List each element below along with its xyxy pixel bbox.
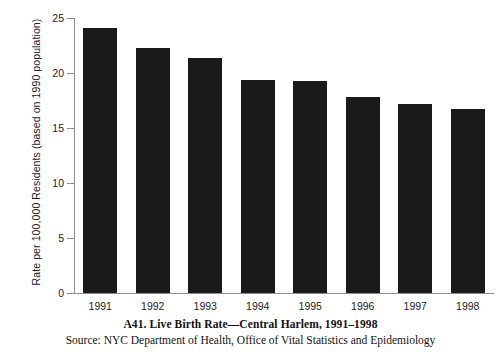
bar: [346, 97, 380, 293]
y-tick-mark: [67, 128, 74, 129]
x-tick-label: 1996: [351, 300, 374, 312]
y-tick-mark: [67, 18, 74, 19]
y-tick-label: 0: [58, 287, 64, 299]
x-tick-label: 1995: [299, 300, 322, 312]
x-tick-label: 1993: [194, 300, 217, 312]
bar: [83, 28, 117, 293]
y-tick-label: 20: [52, 67, 64, 79]
x-tick-label: 1997: [404, 300, 427, 312]
bar: [293, 81, 327, 293]
figure-caption: A41. Live Birth Rate—Central Harlem, 199…: [0, 318, 501, 330]
y-tick-mark: [67, 238, 74, 239]
bar: [398, 104, 432, 293]
x-tick-label: 1998: [456, 300, 479, 312]
y-axis-title: Rate per 100,000 Residents (based on 199…: [30, 2, 42, 302]
y-tick-mark: [67, 293, 74, 294]
y-tick-label: 15: [52, 122, 64, 134]
x-tick-label: 1992: [141, 300, 164, 312]
y-tick-label: 25: [52, 12, 64, 24]
y-tick-mark: [67, 183, 74, 184]
plot-area: 0510152025 19911992199319941995199619971…: [74, 18, 494, 293]
x-tick-label: 1991: [89, 300, 112, 312]
bar: [241, 80, 275, 293]
bar: [136, 48, 170, 293]
y-tick-label: 5: [58, 232, 64, 244]
x-tick-label: 1994: [246, 300, 269, 312]
x-axis-line: [74, 293, 494, 294]
bar-series: [74, 18, 494, 293]
chart-figure: Rate per 100,000 Residents (based on 199…: [0, 0, 501, 355]
bar: [188, 58, 222, 293]
figure-source: Source: NYC Department of Health, Office…: [0, 334, 501, 346]
y-tick-label: 10: [52, 177, 64, 189]
y-tick-mark: [67, 73, 74, 74]
bar: [451, 109, 485, 293]
